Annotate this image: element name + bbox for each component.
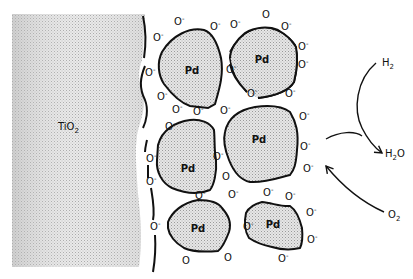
oxygen-ion: O- [153,31,164,43]
reaction-arrows [326,63,384,212]
oxygen-ion: O- [172,103,183,115]
oxygen-ion: O- [213,150,224,162]
pd-label: Pd [185,65,200,76]
oxygen-ion: O [222,171,230,182]
oxygen-ion: O- [146,152,157,164]
oxygen-ion: O- [307,233,318,245]
pd-label: Pd [191,223,206,234]
oxygen-ion: O [262,9,270,20]
oxygen-ion: O- [150,220,161,232]
pd-label: Pd [266,219,281,230]
oxygen-ion: O- [157,90,168,102]
oxygen-ion: O- [303,162,314,174]
pd-label: Pd [181,163,196,174]
pd-particle-6: Pd [245,202,302,249]
oxygen-ion: O- [278,252,289,264]
o2-arrow [326,166,384,212]
oxygen-ion: O- [230,18,241,30]
oxygen-ion: O- [306,206,317,218]
oxygen-ion: O- [228,188,239,200]
oxygen-ion: O [224,252,232,263]
pd-label: Pd [255,54,270,65]
o2-label: O2 [388,209,400,223]
oxygen-ion: O- [210,20,221,32]
h2-arrow [357,63,382,153]
oxygen-ion: O- [298,58,309,70]
oxygen-ion: O- [145,66,156,78]
diagram-canvas: TiO2 Pd Pd Pd Pd Pd [0,0,413,279]
oxygen-ion: O- [195,189,206,201]
h2-label: H2 [382,57,394,71]
pd-particle-4: Pd [224,106,297,182]
oxygen-ion: O- [220,104,231,116]
oxygen-ion: O- [298,40,309,52]
oxygen-ion: O- [193,105,204,117]
h2o-label: H2O [385,148,405,162]
pd-particle-1: Pd [159,29,222,108]
diagram-svg: TiO2 Pd Pd Pd Pd Pd [0,0,413,279]
pd-particle-5: Pd [168,200,230,252]
surface-to-h2o-arrow [326,133,362,139]
pd-label: Pd [252,134,267,145]
tio2-support: TiO2 [12,14,155,272]
oxygen-ion: O- [263,186,274,198]
oxygen-ion: O- [247,87,258,99]
oxygen-ion: O- [146,175,157,187]
oxygen-ion: O [182,255,190,266]
oxygen-ion: O- [281,20,292,32]
oxygen-ion: O- [174,15,185,27]
oxygen-ion: O- [285,87,296,99]
oxygen-ion: O- [299,110,310,122]
oxygen-ion: O- [300,140,311,152]
oxygen-ion: O- [285,190,296,202]
